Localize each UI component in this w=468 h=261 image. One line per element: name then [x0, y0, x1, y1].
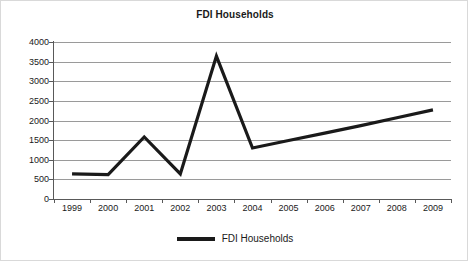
- x-axis-tick-mark: [90, 199, 91, 203]
- x-axis-tick-mark: [198, 199, 199, 203]
- y-axis-tick-mark: [49, 101, 53, 102]
- y-axis-tick-mark: [49, 140, 53, 141]
- y-axis-tick-label: 1500: [5, 135, 49, 145]
- x-axis-tick-mark: [343, 199, 344, 203]
- y-axis-tick-mark: [49, 199, 53, 200]
- y-axis-tick-label: 1000: [5, 155, 49, 165]
- x-axis-tick-mark: [451, 199, 452, 203]
- x-axis-tick-label: 2003: [206, 203, 226, 213]
- chart-title: FDI Households: [1, 9, 468, 20]
- y-axis-tick-label: 3000: [5, 76, 49, 86]
- chart-legend: FDI Households: [1, 233, 468, 244]
- y-axis-tick-label: 0: [5, 194, 49, 204]
- y-axis-tick-mark: [49, 160, 53, 161]
- chart-container: FDI Households 4000350030002500200015001…: [0, 0, 468, 261]
- y-axis-tick-mark: [49, 42, 53, 43]
- y-axis-tick-mark: [49, 62, 53, 63]
- x-axis-tick-label: 2008: [387, 203, 407, 213]
- y-axis-tick-label: 500: [5, 174, 49, 184]
- x-axis-tick-mark: [234, 199, 235, 203]
- y-axis-labels: 40003500300025002000150010005000: [1, 1, 49, 261]
- x-axis-tick-label: 2009: [423, 203, 443, 213]
- x-axis-tick-label: 2000: [98, 203, 118, 213]
- x-axis-tick-label: 2001: [134, 203, 154, 213]
- x-axis-tick-label: 2006: [315, 203, 335, 213]
- x-axis-tick-label: 2002: [170, 203, 190, 213]
- legend-line-swatch: [177, 237, 215, 241]
- y-axis-tick-label: 3500: [5, 57, 49, 67]
- x-axis-tick-label: 2007: [351, 203, 371, 213]
- x-axis-tick-mark: [271, 199, 272, 203]
- x-axis-tick-mark: [162, 199, 163, 203]
- y-axis-tick-label: 2500: [5, 96, 49, 106]
- x-axis-tick-mark: [126, 199, 127, 203]
- x-axis-tick-mark: [379, 199, 380, 203]
- x-axis-tick-label: 2004: [242, 203, 262, 213]
- y-axis-tick-mark: [49, 121, 53, 122]
- y-axis-tick-mark: [49, 179, 53, 180]
- legend-item-label: FDI Households: [222, 233, 294, 244]
- x-axis-tick-mark: [415, 199, 416, 203]
- y-axis-tick-label: 4000: [5, 37, 49, 47]
- x-axis-tick-mark: [307, 199, 308, 203]
- y-axis-tick-mark: [49, 81, 53, 82]
- x-axis-line: [53, 199, 452, 200]
- x-axis-tick-label: 2005: [279, 203, 299, 213]
- y-axis-tick-label: 2000: [5, 116, 49, 126]
- series-line-fdi-households: [54, 42, 451, 199]
- x-axis-tick-mark: [54, 199, 55, 203]
- x-axis-tick-label: 1999: [62, 203, 82, 213]
